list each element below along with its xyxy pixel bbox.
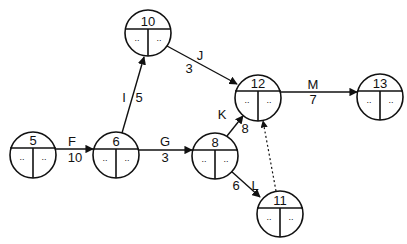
edge-j-activity: J (197, 48, 204, 63)
node-12-label: 12 (251, 76, 265, 91)
edge-g-duration: 3 (161, 150, 168, 165)
node-8-right-value: .. (223, 154, 228, 164)
node-11-right-value: .. (288, 212, 293, 222)
network-diagram: F 10 I 5 G 3 J 3 K 8 L 6 (0, 0, 407, 244)
node-10-left-value: .. (134, 33, 139, 43)
node-13-left-value: .. (366, 95, 371, 105)
node-6[interactable]: 6 .. .. (93, 132, 139, 178)
node-6-left-value: .. (102, 153, 107, 163)
node-10-label: 10 (141, 14, 155, 29)
edge-m[interactable]: M 7 (281, 77, 357, 107)
edge-l-activity: L (251, 178, 258, 193)
node-10[interactable]: 10 .. .. (125, 10, 171, 56)
node-6-right-value: .. (124, 153, 129, 163)
edge-i-activity: I (122, 90, 126, 105)
edge-j-duration: 3 (185, 61, 192, 76)
edge-f-duration: 10 (68, 150, 82, 165)
node-8-label: 8 (211, 135, 218, 150)
edge-k-activity: K (218, 107, 227, 122)
edge-f[interactable]: F 10 (56, 134, 93, 165)
node-13-right-value: .. (388, 95, 393, 105)
edge-m-duration: 7 (309, 92, 316, 107)
edge-l-duration: 6 (232, 178, 239, 193)
node-11-left-value: .. (266, 212, 271, 222)
node-5[interactable]: 5 .. .. (10, 132, 56, 178)
edge-k-duration: 8 (241, 121, 248, 136)
edge-g-activity: G (160, 134, 170, 149)
node-8-left-value: .. (201, 154, 206, 164)
nodes: 5 .. .. 6 .. .. 10 .. .. 8 .. (10, 10, 403, 237)
edge-i-duration: 5 (135, 90, 142, 105)
node-5-label: 5 (29, 133, 36, 148)
node-11-label: 11 (273, 193, 287, 208)
edge-dummy[interactable] (263, 121, 276, 191)
edge-j[interactable]: J 3 (167, 46, 237, 84)
node-12-left-value: .. (244, 95, 249, 105)
node-5-left-value: .. (19, 152, 24, 162)
edge-g[interactable]: G 3 (139, 134, 192, 165)
node-13[interactable]: 13 .. .. (357, 74, 403, 120)
edge-i[interactable]: I 5 (122, 57, 144, 133)
node-13-label: 13 (373, 76, 387, 91)
node-11[interactable]: 11 .. .. (257, 191, 303, 237)
node-8[interactable]: 8 .. .. (192, 133, 238, 179)
edge-m-activity: M (308, 77, 319, 92)
edge-l[interactable]: L 6 (231, 171, 260, 197)
edge-f-activity: F (68, 134, 76, 149)
node-5-right-value: .. (41, 152, 46, 162)
node-12[interactable]: 12 .. .. (235, 75, 281, 121)
node-6-label: 6 (112, 134, 119, 149)
node-10-right-value: .. (156, 33, 161, 43)
node-12-right-value: .. (266, 95, 271, 105)
